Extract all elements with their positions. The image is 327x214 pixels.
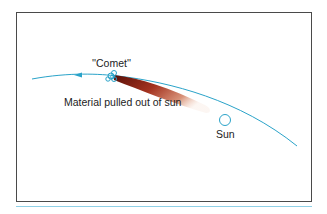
sun-label: Sun: [216, 128, 235, 140]
material-label: Material pulled out of sun: [64, 96, 181, 108]
comet-label: ''Comet'': [92, 57, 131, 69]
sun-icon: [220, 115, 231, 126]
orbit-path: [32, 74, 297, 146]
orbit-direction-arrow-icon: [74, 73, 82, 78]
bottom-rule: [16, 206, 312, 207]
